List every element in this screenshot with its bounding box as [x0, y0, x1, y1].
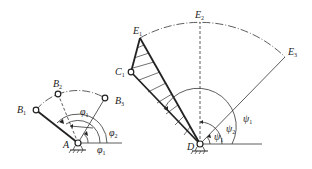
label-b1: B1 [17, 104, 26, 116]
label-phi1-top: φ1 [80, 106, 89, 118]
joint-b1 [33, 107, 39, 113]
hatched-link-dce [133, 45, 190, 135]
label-phi2: φ2 [109, 127, 118, 139]
diagram-svg: B1 B2 B3 A φ1 φ2 φ1 [0, 0, 312, 169]
label-pivot-a: A [62, 139, 70, 150]
ground-support-a-icon [69, 146, 86, 153]
right-mechanism: E1 E2 E3 C1 D ψ1 ψ2 ψ1 [115, 9, 297, 154]
label-e3: E3 [287, 46, 297, 58]
label-psi2: ψ2 [226, 123, 235, 135]
joint-b2 [55, 91, 61, 97]
label-pivot-d: D [186, 141, 195, 152]
label-b2: B2 [53, 78, 62, 90]
pivot-a [75, 140, 81, 146]
linkage-diagram: B1 B2 B3 A φ1 φ2 φ1 [0, 0, 312, 169]
label-psi1-inner: ψ1 [214, 131, 223, 143]
label-b3: B3 [115, 95, 124, 107]
joint-c1 [128, 69, 134, 75]
label-phi1-bottom: φ1 [97, 144, 106, 156]
label-e2: E2 [194, 9, 204, 21]
trajectory-arc-e [140, 22, 285, 57]
label-c1: C1 [115, 66, 125, 78]
label-e1: E1 [132, 25, 142, 37]
link-de3 [200, 57, 285, 144]
arrowhead-icon [200, 120, 203, 124]
trajectory-arc-b [36, 90, 105, 110]
joint-b3 [102, 95, 108, 101]
link-e1c1 [131, 38, 140, 72]
angle-arc-psi1-inner [207, 137, 210, 144]
left-mechanism: B1 B2 B3 A φ1 φ2 φ1 [17, 78, 124, 156]
arrowhead-icon [59, 119, 64, 124]
pivot-d [197, 141, 203, 147]
angle-arc-phi2 [66, 120, 100, 143]
label-psi1-outer: ψ1 [243, 113, 252, 125]
angle-arc-phi1-top-leader [70, 126, 93, 128]
